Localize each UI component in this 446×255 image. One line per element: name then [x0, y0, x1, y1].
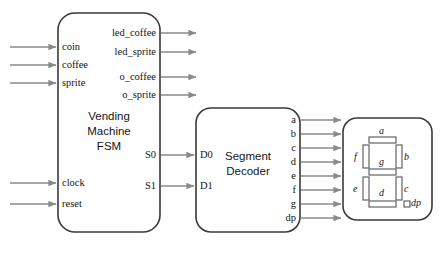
decoder-output-label-a: a — [240, 115, 296, 126]
fsm-output-label-s1: S1 — [60, 181, 156, 192]
segment-label-b: b — [404, 152, 409, 162]
fsm-output-label-led-coffee: led_coffee — [60, 28, 156, 39]
state-wires — [161, 155, 194, 186]
segment-label-a: a — [379, 126, 384, 136]
fsm-title-line-1: Vending — [58, 111, 160, 123]
segment-label-d: d — [379, 188, 384, 198]
segment-b-bar — [396, 145, 402, 168]
fsm-title-line-2: Machine — [58, 126, 160, 138]
fsm-input-label-coffee: coffee — [62, 60, 88, 71]
fsm-output-label-o-coffee: o_coffee — [60, 72, 156, 83]
segment-label-f: f — [354, 152, 357, 162]
decoder-output-label-g: g — [240, 199, 296, 210]
segment-f-bar — [363, 145, 369, 168]
fsm-output-label-o-sprite: o_sprite — [60, 90, 156, 101]
seven-segment-bars — [363, 137, 410, 207]
decoder-output-label-dp: dp — [240, 213, 296, 224]
segment-c-bar — [396, 177, 402, 200]
segment-dp-dot — [404, 201, 410, 207]
decoder-output-label-c: c — [240, 143, 296, 154]
segment-label-dp: dp — [411, 198, 421, 208]
decoder-input-label-d1: D1 — [200, 181, 213, 192]
fsm-input-label-reset: reset — [62, 199, 82, 210]
fsm-output-wires — [161, 33, 196, 95]
segment-wires — [301, 120, 341, 218]
segment-d-bar — [369, 201, 396, 207]
fsm-output-label-led-sprite: led_sprite — [60, 47, 156, 58]
segment-label-e: e — [353, 184, 357, 194]
segment-e-bar — [363, 177, 369, 200]
segment-g-bar — [369, 169, 396, 175]
decoder-output-label-b: b — [240, 129, 296, 140]
segment-label-c: c — [404, 184, 408, 194]
segment-label-g: g — [379, 157, 384, 167]
fsm-title-line-3: FSM — [58, 141, 160, 153]
fsm-input-wires — [10, 47, 56, 204]
decoder-output-label-f: f — [240, 185, 296, 196]
segment-a-bar — [369, 137, 396, 143]
decoder-output-label-d: d — [240, 157, 296, 168]
decoder-output-label-e: e — [240, 171, 296, 182]
diagram-canvas: coin coffee sprite clock reset led_coffe… — [0, 0, 446, 255]
